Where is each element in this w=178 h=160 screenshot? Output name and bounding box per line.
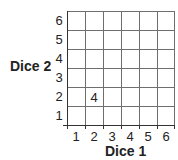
y-tick-label: 5 — [54, 33, 64, 46]
x-tick-label: 1 — [67, 130, 85, 143]
y-tick-label: 1 — [54, 109, 64, 122]
y-axis-title: Dice 2 — [10, 59, 51, 73]
y-tick-label: 3 — [54, 71, 64, 84]
y-tick-label: 4 — [54, 52, 64, 65]
x-tick — [174, 125, 175, 129]
x-tick-label: 6 — [157, 130, 175, 143]
x-tick — [139, 125, 140, 129]
y-tick-label: 2 — [54, 90, 64, 103]
grid-line — [67, 11, 175, 12]
y-tick-label: 6 — [54, 14, 64, 27]
x-tick — [103, 125, 104, 129]
grid — [67, 11, 175, 125]
grid-line — [67, 87, 175, 88]
x-tick-label: 4 — [121, 130, 139, 143]
grid-line — [67, 30, 175, 31]
grid-line — [67, 49, 175, 50]
x-tick-label: 3 — [103, 130, 121, 143]
x-tick — [157, 125, 158, 129]
x-tick-label: 5 — [139, 130, 157, 143]
x-axis — [63, 125, 175, 126]
grid-line — [67, 106, 175, 107]
y-axis — [67, 11, 68, 129]
grid-line — [67, 68, 175, 69]
x-tick — [85, 125, 86, 129]
x-axis-title: Dice 1 — [105, 144, 146, 158]
x-tick — [121, 125, 122, 129]
cell-value: 4 — [85, 91, 103, 104]
x-tick-label: 2 — [85, 130, 103, 143]
